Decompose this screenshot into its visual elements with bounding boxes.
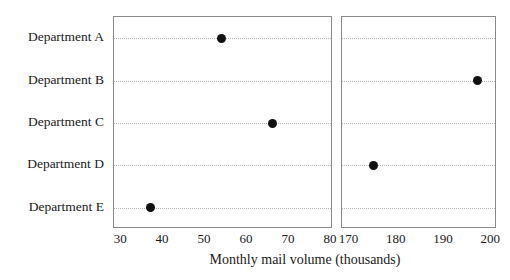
gridline [342,208,495,209]
category-axis-labels: Department ADepartment BDepartment CDepa… [0,0,104,280]
gridline [342,123,495,124]
x-axis-title-text: Monthly mail volume (thousands) [210,252,401,267]
gridline [114,123,331,124]
x-axis-title: Monthly mail volume (thousands) [0,252,510,268]
gridline [342,38,495,39]
chart-panel-left [113,16,332,228]
gridline [114,165,331,166]
chart-panel-right [341,16,496,228]
dot-plot-figure: Department ADepartment BDepartment CDepa… [0,0,510,280]
x-tick-label-170: 170 [339,232,359,246]
x-tick-label-70: 70 [281,232,294,246]
data-point [268,119,277,128]
x-tick-label-40: 40 [156,232,169,246]
x-tick-label-50: 50 [198,232,211,246]
x-tick-label-200: 200 [481,232,501,246]
x-tick-label-190: 190 [433,232,453,246]
gridline [114,81,331,82]
data-point [217,34,226,43]
panel-left-plot-area [114,17,331,227]
x-axis-ticks-right: 170180190200 [341,228,496,254]
x-tick-label-60: 60 [239,232,252,246]
x-tick-label-80: 80 [323,232,336,246]
data-point [473,76,482,85]
panel-right-plot-area [342,17,495,227]
category-label-e: Department E [0,200,104,214]
x-tick-label-30: 30 [114,232,127,246]
gridline [342,165,495,166]
data-point [369,161,378,170]
x-axis-ticks-left: 304050607080 [113,228,332,254]
data-point [146,203,155,212]
x-tick-label-180: 180 [386,232,406,246]
category-label-b: Department B [0,73,104,87]
category-label-a: Department A [0,30,104,44]
category-label-c: Department C [0,115,104,129]
category-label-d: Department D [0,157,104,171]
